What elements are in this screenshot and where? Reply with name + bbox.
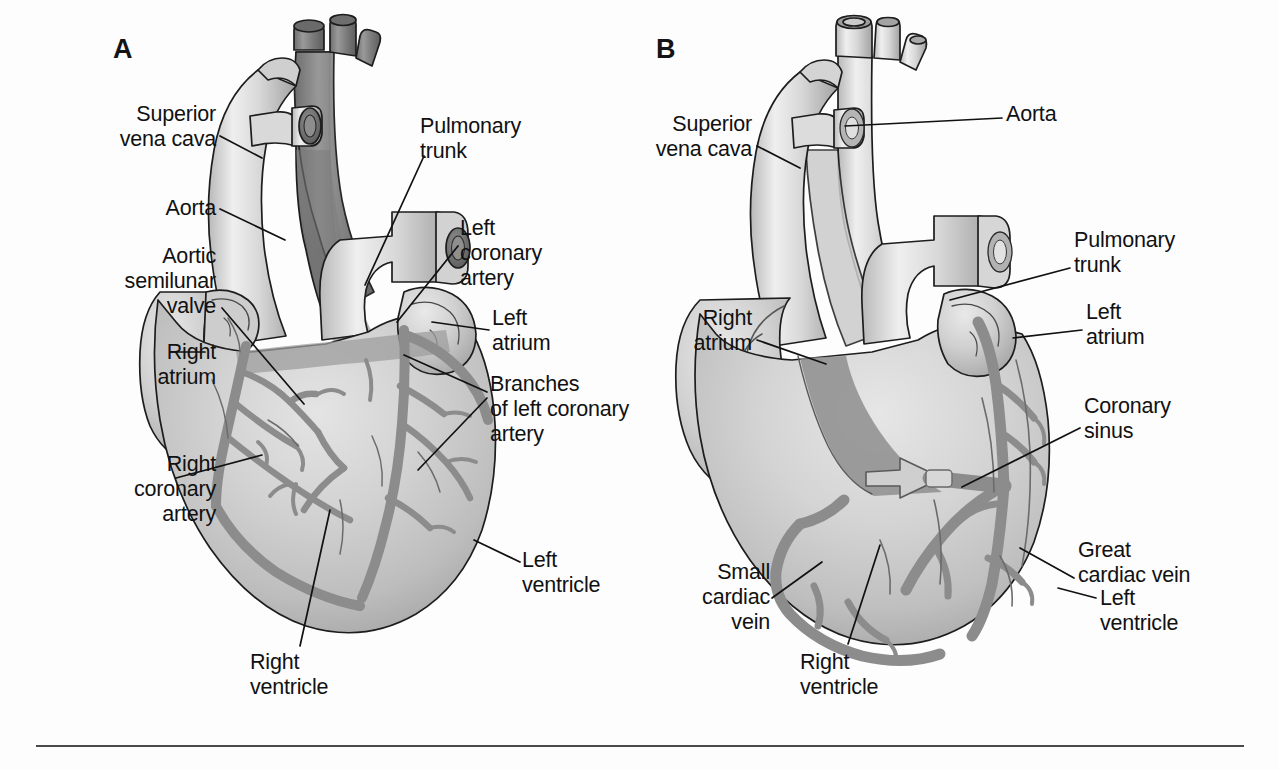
label-a-right-coronary-artery: Right coronary artery (56, 452, 216, 527)
label-b-pulmonary-trunk: Pulmonary trunk (1074, 228, 1244, 278)
label-b-superior-vena-cava: Superior vena cava (600, 112, 752, 162)
bottom-rule (36, 745, 1244, 747)
panel-letter-b: B (656, 34, 676, 65)
leader-a-left-ventricle (474, 540, 520, 562)
label-b-left-ventricle: Left ventricle (1100, 586, 1240, 636)
leader-b-great-cardiac-vein (1020, 548, 1074, 578)
leader-b-left-atrium (1013, 330, 1082, 338)
label-a-left-coronary-artery: Left coronary artery (460, 216, 610, 291)
label-b-aorta: Aorta (1006, 102, 1126, 127)
label-a-pulmonary-trunk: Pulmonary trunk (420, 114, 590, 164)
label-b-right-atrium: Right atrium (600, 306, 752, 356)
label-b-coronary-sinus: Coronary sinus (1084, 394, 1244, 444)
label-a-right-atrium: Right atrium (64, 340, 216, 390)
panel-letter-a: A (113, 34, 133, 65)
label-b-right-ventricle: Right ventricle (800, 650, 940, 700)
label-a-right-ventricle: Right ventricle (250, 650, 390, 700)
label-a-left-atrium: Left atrium (492, 306, 612, 356)
figure-heart-anatomy: Superior vena cavaAortaAortic semilunar … (0, 0, 1278, 770)
leader-b-left-ventricle (1058, 588, 1096, 598)
label-b-left-atrium: Left atrium (1086, 300, 1216, 350)
label-b-small-cardiac-vein: Small cardiac vein (620, 560, 770, 635)
label-a-aorta: Aorta (64, 196, 216, 221)
label-b-great-cardiac-vein: Great cardiac vein (1078, 538, 1264, 588)
label-a-aortic-semilunar-valve: Aortic semilunar valve (44, 244, 216, 319)
label-a-superior-vena-cava: Superior vena cava (64, 102, 216, 152)
label-a-branches-of-left-coronary-artery: Branches of left coronary artery (490, 372, 700, 447)
